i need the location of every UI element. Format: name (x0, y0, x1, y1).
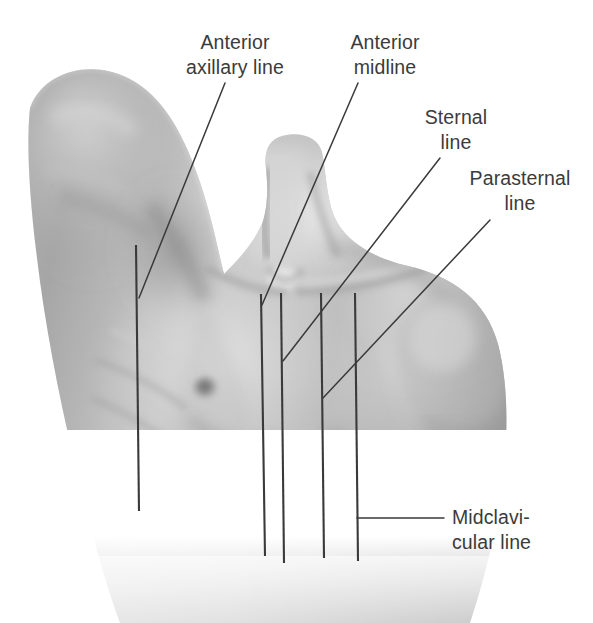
deltoid-right-highlight (408, 304, 476, 372)
label-anterior-midline: Anteriormidline (325, 30, 445, 80)
label-parasternal-line-line1: Parasternal (470, 167, 571, 189)
label-sternal-line-line1: Sternal (425, 106, 488, 128)
nipple-left (193, 377, 219, 401)
label-anterior-axillary-line: Anterioraxillary line (165, 30, 305, 80)
label-parasternal-line-line2: line (505, 192, 536, 214)
bottom-white-band (0, 556, 593, 623)
label-anterior-axillary-line-line1: Anterior (200, 31, 269, 53)
neck-column (252, 150, 304, 268)
label-midclavicular-line-line2: cular line (452, 531, 531, 553)
label-anterior-axillary-line-line2: axillary line (186, 56, 284, 78)
label-sternal-line-line2: line (441, 131, 472, 153)
label-anterior-midline-line1: Anterior (350, 31, 419, 53)
sternocleidomastoid-left (264, 168, 268, 258)
label-midclavicular-line-line1: Midclavi- (452, 506, 530, 528)
label-midclavicular-line: Midclavi-cular line (452, 505, 592, 555)
label-sternal-line: Sternalline (406, 105, 506, 155)
anatomy-figure: Anterioraxillary lineAnteriormidlineSter… (0, 0, 593, 623)
label-anterior-midline-line2: midline (354, 56, 416, 78)
label-parasternal-line: Parasternalline (455, 166, 585, 216)
